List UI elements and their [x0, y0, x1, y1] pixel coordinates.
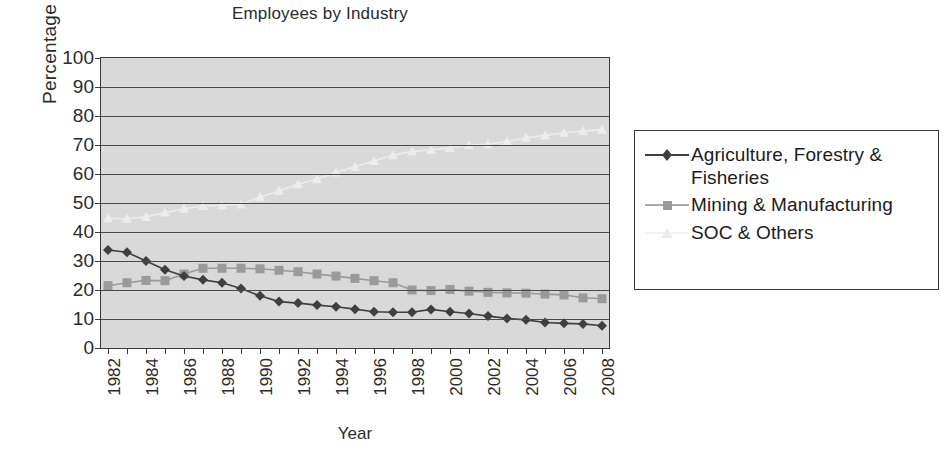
x-tick-mark: [260, 348, 261, 354]
x-tick-label: 1990: [257, 358, 277, 396]
data-point-marker: [597, 321, 607, 331]
data-point-marker: [332, 272, 341, 281]
y-tick-label: 100: [62, 47, 94, 69]
x-tick-label: 2008: [599, 358, 619, 396]
data-point-marker: [122, 247, 132, 257]
x-tick-mark: [108, 348, 109, 354]
data-point-marker: [389, 278, 398, 287]
x-tick-mark: [374, 348, 375, 354]
chart-title: Employees by Industry: [0, 4, 640, 24]
x-tick-label: 2004: [523, 358, 543, 396]
data-point-marker: [199, 264, 208, 273]
data-point-marker: [579, 293, 588, 302]
x-tick-mark: [469, 348, 470, 354]
x-tick-label: 2002: [485, 358, 505, 396]
gridline: [101, 203, 609, 204]
data-point-marker: [275, 266, 284, 275]
x-tick-label: 2000: [447, 358, 467, 396]
data-point-marker: [351, 274, 360, 283]
legend-label: Agriculture, Forestry & Fisheries: [691, 143, 932, 189]
x-tick-mark: [545, 348, 546, 354]
x-tick-mark: [146, 348, 147, 354]
data-point-marker: [160, 265, 170, 275]
y-tick-label: 80: [73, 105, 94, 127]
data-point-marker: [103, 245, 113, 255]
x-tick-label: 1988: [219, 358, 239, 396]
x-tick-mark: [127, 348, 128, 354]
x-tick-mark: [241, 348, 242, 354]
x-tick-label: 1996: [371, 358, 391, 396]
data-point-marker: [256, 264, 265, 273]
data-point-marker: [217, 278, 227, 288]
x-tick-mark: [279, 348, 280, 354]
gridline: [101, 87, 609, 88]
data-point-marker: [104, 281, 113, 290]
x-tick-mark: [184, 348, 185, 354]
x-tick-mark: [564, 348, 565, 354]
y-axis-label: Percentage: [39, 0, 61, 154]
gridline: [101, 319, 609, 320]
data-point-marker: [294, 267, 303, 276]
data-point-marker: [560, 290, 569, 299]
x-tick-mark: [431, 348, 432, 354]
data-point-marker: [578, 319, 588, 329]
data-point-marker: [161, 276, 170, 285]
data-point-marker: [464, 308, 474, 318]
x-tick-mark: [336, 348, 337, 354]
x-axis-label: Year: [100, 424, 610, 444]
y-tick-label: 20: [73, 279, 94, 301]
gridline: [101, 261, 609, 262]
plot-area: Percentage 0102030405060708090100 198219…: [100, 57, 610, 349]
data-point-marker: [218, 264, 227, 273]
data-point-marker: [255, 291, 265, 301]
x-tick-mark: [450, 348, 451, 354]
y-tick-label: 30: [73, 250, 94, 272]
x-tick-mark: [317, 348, 318, 354]
gridline: [101, 116, 609, 117]
data-point-marker: [445, 307, 455, 317]
x-tick-mark: [488, 348, 489, 354]
data-point-marker: [331, 302, 341, 312]
data-point-marker: [312, 300, 322, 310]
legend-item-mining[interactable]: Mining & Manufacturing: [643, 193, 932, 217]
data-point-marker: [293, 298, 303, 308]
legend-item-agriculture[interactable]: Agriculture, Forestry & Fisheries: [643, 143, 932, 189]
gridline: [101, 290, 609, 291]
y-tick-label: 0: [83, 337, 94, 359]
y-tick-label: 60: [73, 163, 94, 185]
data-point-marker: [198, 275, 208, 285]
y-tick-label: 10: [73, 308, 94, 330]
legend-label: Mining & Manufacturing: [691, 193, 893, 216]
legend-label: SOC & Others: [691, 221, 814, 244]
x-tick-mark: [583, 348, 584, 354]
gridline: [101, 145, 609, 146]
data-point-marker: [236, 284, 246, 294]
data-point-marker: [369, 307, 379, 317]
data-point-marker: [274, 297, 284, 307]
x-tick-label: 1992: [295, 358, 315, 396]
legend-item-soc[interactable]: SOC & Others: [643, 221, 932, 245]
legend-marker-triangle-icon: [643, 221, 691, 245]
data-point-marker: [407, 307, 417, 317]
legend-marker-square-icon: [643, 193, 691, 217]
data-point-marker: [142, 276, 151, 285]
data-point-marker: [598, 294, 607, 303]
data-point-marker: [388, 307, 398, 317]
x-tick-mark: [222, 348, 223, 354]
data-point-marker: [350, 304, 360, 314]
data-point-marker: [237, 264, 246, 273]
x-tick-mark: [507, 348, 508, 354]
x-tick-mark: [393, 348, 394, 354]
gridline: [101, 174, 609, 175]
y-tick-mark: [95, 348, 101, 349]
x-tick-mark: [203, 348, 204, 354]
x-tick-label: 1982: [105, 358, 125, 396]
data-point-marker: [123, 278, 132, 287]
data-point-marker: [465, 287, 474, 296]
chart-legend: Agriculture, Forestry & Fisheries Mining…: [634, 130, 939, 290]
data-point-marker: [426, 304, 436, 314]
x-tick-label: 1984: [143, 358, 163, 396]
y-tick-label: 40: [73, 221, 94, 243]
x-tick-mark: [298, 348, 299, 354]
data-point-marker: [370, 276, 379, 285]
